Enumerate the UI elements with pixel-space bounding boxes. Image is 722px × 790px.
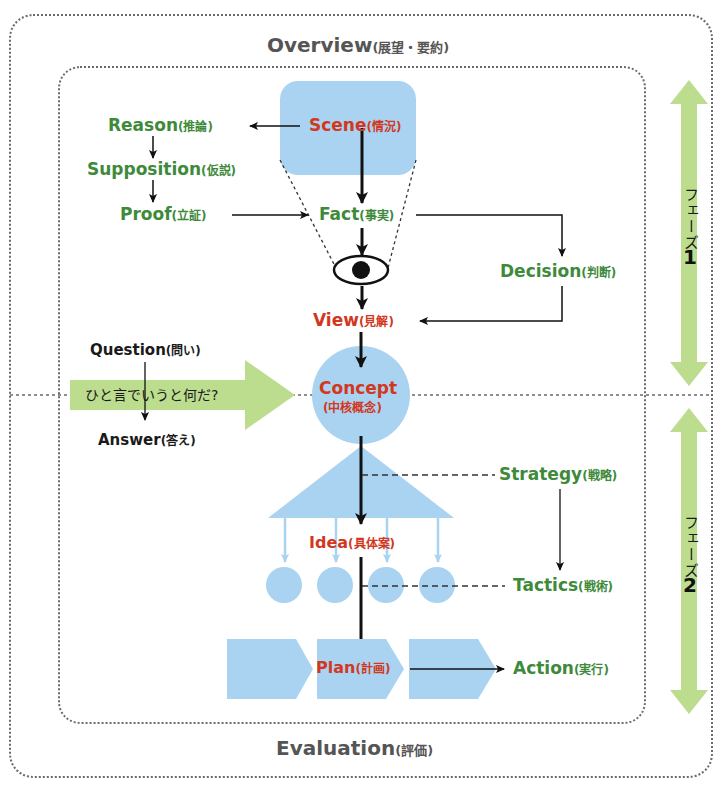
plan-chevron [227,639,313,699]
evaluation-title: Evaluation(評価) [276,738,433,758]
tactic-circle [419,567,455,603]
decision-label: Decision(判断) [500,263,616,280]
fact-label: Fact(事実) [319,206,394,223]
tactic-circle [317,567,353,603]
strategy-label: Strategy(戦略) [499,466,617,483]
idea-label: Idea(具体案) [309,535,395,551]
concept-jp-label: (中核概念) [323,402,382,414]
phase2-label: フェーズ [680,515,701,579]
supposition-label: Supposition(仮説) [87,161,236,178]
scene-label: Scene(情況) [309,117,401,134]
phase1-number: 1 [683,245,697,269]
plan-label: Plan(計画) [316,660,390,676]
overview-title: Overview(展望・要約) [267,35,449,55]
answer-label: Answer(答え) [98,433,196,448]
banner-text: ひと言でいうと何だ? [85,388,218,402]
question-label: Question(問い) [90,343,201,358]
tactic-circle [266,567,302,603]
reason-label: Reason(推論) [108,117,213,134]
tactic-circle [368,567,404,603]
phase2-number: 2 [683,573,697,597]
concept-label: Concept [319,380,397,397]
tactics-label: Tactics(戦術) [513,577,613,594]
action-label: Action(実行) [513,660,609,677]
view-label: View(見解) [313,312,394,329]
phase1-label: フェーズ [680,187,701,251]
proof-label: Proof(立証) [120,206,207,223]
